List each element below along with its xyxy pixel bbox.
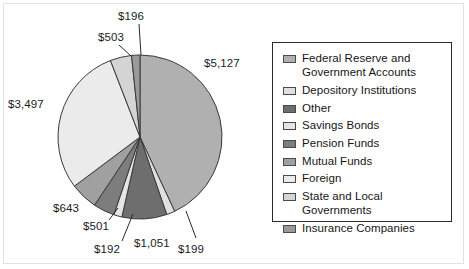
legend-swatch-icon bbox=[283, 55, 296, 63]
pie-value-label: $5,127 bbox=[204, 57, 240, 69]
legend-item[interactable]: Savings Bonds bbox=[283, 118, 447, 132]
legend-swatch-icon bbox=[283, 175, 296, 183]
pie-value-label: $501 bbox=[83, 220, 109, 232]
legend-item-label: State and Local Governments bbox=[302, 189, 447, 217]
legend-item[interactable]: Pension Funds bbox=[283, 136, 447, 150]
legend-item-label: Savings Bonds bbox=[302, 118, 379, 132]
legend-item[interactable]: Federal Reserve and Government Accounts bbox=[283, 51, 447, 79]
pie-slice-group bbox=[58, 55, 222, 219]
legend-swatch-icon bbox=[283, 87, 296, 95]
pie-value-label: $3,497 bbox=[8, 98, 44, 110]
pie-value-label: $199 bbox=[178, 243, 204, 255]
legend-item-label: Other bbox=[302, 101, 331, 115]
pie-value-label: $196 bbox=[118, 10, 144, 22]
legend-swatch-icon bbox=[283, 193, 296, 201]
legend-item[interactable]: Mutual Funds bbox=[283, 154, 447, 168]
legend-item-label: Mutual Funds bbox=[302, 154, 372, 168]
legend-item-list: Federal Reserve and Government AccountsD… bbox=[283, 51, 447, 239]
legend-item[interactable]: State and Local Governments bbox=[283, 189, 447, 217]
leader-line bbox=[139, 24, 141, 55]
legend-item-label: Depository Institutions bbox=[302, 83, 416, 97]
legend-item[interactable]: Foreign bbox=[283, 171, 447, 185]
legend-swatch-icon bbox=[283, 105, 296, 113]
legend-swatch-icon bbox=[283, 140, 296, 148]
pie-chart-figure: $196$503$5,127$3,497$643$501$192$1,051$1… bbox=[0, 0, 469, 269]
pie-value-label: $192 bbox=[94, 243, 120, 255]
legend-item[interactable]: Depository Institutions bbox=[283, 83, 447, 97]
pie-value-label: $643 bbox=[53, 202, 79, 214]
legend-item-label: Pension Funds bbox=[302, 136, 379, 150]
pie-value-label: $503 bbox=[98, 31, 124, 43]
legend-item-label: Insurance Companies bbox=[302, 221, 415, 235]
chart-legend: Federal Reserve and Government AccountsD… bbox=[272, 42, 452, 222]
leader-line bbox=[119, 45, 131, 56]
legend-swatch-icon bbox=[283, 158, 296, 166]
leader-line bbox=[186, 211, 196, 238]
legend-item-label: Foreign bbox=[302, 171, 341, 185]
pie-value-label: $1,051 bbox=[134, 237, 170, 249]
legend-item[interactable]: Insurance Companies bbox=[283, 221, 447, 235]
legend-item[interactable]: Other bbox=[283, 101, 447, 115]
legend-swatch-icon bbox=[283, 225, 296, 233]
legend-item-label: Federal Reserve and Government Accounts bbox=[302, 51, 416, 79]
legend-swatch-icon bbox=[283, 122, 296, 130]
